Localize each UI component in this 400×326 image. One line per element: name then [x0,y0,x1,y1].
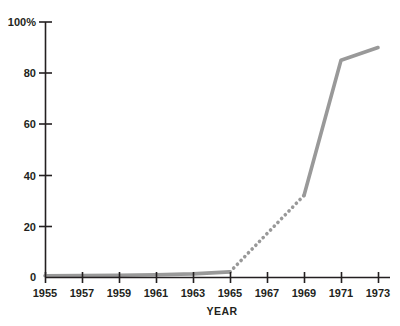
x-tick-label-1961: 1961 [144,287,168,299]
x-tick-label-1959: 1959 [107,287,131,299]
chart-canvas: 100% 80 60 40 20 0 [0,0,400,326]
x-axis-labels: 1955 1957 1959 1961 1963 1965 1967 1969 … [33,287,390,299]
line-chart: 100% 80 60 40 20 0 [0,0,400,326]
x-tick-label-1957: 1957 [70,287,94,299]
x-tick-label-1955: 1955 [33,287,57,299]
y-tick-label-100: 100% [8,16,36,28]
x-axis: 1955 1957 1959 1961 1963 1965 1967 1969 … [33,272,390,317]
series-line-early [45,272,230,276]
x-tick-label-1963: 1963 [181,287,205,299]
y-tick-label-80: 80 [24,67,36,79]
y-tick-label-20: 20 [24,221,36,233]
x-tick-label-1973: 1973 [366,287,390,299]
series-line-late [304,48,378,196]
series-line-dotted-interpolated [230,195,304,272]
y-tick-label-40: 40 [24,170,36,182]
y-axis: 100% 80 60 40 20 0 [8,16,52,283]
y-tick-label-0: 0 [30,271,36,283]
data-series [45,48,378,276]
x-axis-title: YEAR [207,305,238,317]
y-tick-label-60: 60 [24,118,36,130]
x-tick-label-1971: 1971 [329,287,353,299]
y-axis-labels: 100% 80 60 40 20 0 [8,16,36,283]
x-tick-label-1965: 1965 [218,287,242,299]
x-tick-label-1969: 1969 [292,287,316,299]
x-tick-label-1967: 1967 [255,287,279,299]
